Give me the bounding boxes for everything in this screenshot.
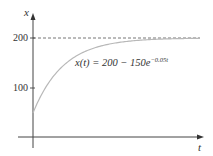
curve-x-of-t: [33, 38, 200, 113]
tick-label-200: 200: [13, 33, 28, 43]
formula-annotation: x(t) = 200 − 150e−0.05t: [75, 58, 168, 69]
x-axis-label: t: [198, 142, 201, 153]
formula-exponent: −0.05t: [150, 56, 168, 63]
formula-main: x(t) = 200 − 150: [75, 57, 146, 68]
y-axis-arrow-icon: [31, 13, 36, 20]
y-axis-label: x: [24, 7, 29, 18]
chart-canvas: [0, 0, 213, 156]
x-axis-arrow-icon: [197, 135, 204, 140]
tick-label-100: 100: [13, 83, 28, 93]
